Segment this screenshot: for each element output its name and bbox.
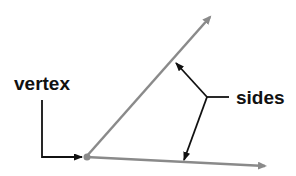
lower-side-ray: [86, 157, 265, 166]
vertex-label: vertex: [14, 73, 70, 94]
diagram-svg: vertex sides: [0, 0, 296, 176]
upper-side-ray: [86, 17, 210, 157]
sides-pointer-upper-arrow: [176, 63, 207, 97]
angle-diagram: vertex sides: [0, 0, 296, 176]
vertex-point: [84, 154, 91, 161]
sides-label: sides: [236, 87, 285, 108]
sides-pointer-lower-arrow: [184, 97, 207, 160]
vertex-pointer-arrow: [42, 100, 82, 157]
